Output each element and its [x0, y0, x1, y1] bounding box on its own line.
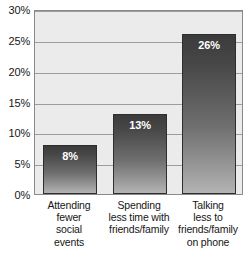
- bar: 8%: [43, 145, 97, 194]
- x-axis-category-line: events: [34, 236, 104, 248]
- x-axis-category-label: Spendingless time withfriends/family: [104, 199, 174, 236]
- x-axis-category-line: friends/family: [173, 223, 243, 235]
- bar-value-label: 13%: [114, 119, 166, 131]
- plot-area: 8%13%26%: [34, 10, 243, 195]
- x-axis-category-line: fewer: [34, 211, 104, 223]
- x-axis-category-line: social: [34, 223, 104, 235]
- x-axis-category-line: Attending: [34, 199, 104, 211]
- x-axis-category-line: friends/family: [104, 223, 174, 235]
- x-axis-category-label: Attendingfewersocialevents: [34, 199, 104, 248]
- y-axis-tick-label: 10%: [9, 128, 30, 139]
- y-axis-tick-label: 15%: [9, 97, 30, 108]
- bar: 26%: [182, 34, 236, 194]
- bar-chart: 0%5%10%15%20%25%30% 8%13%26% Attendingfe…: [0, 0, 250, 258]
- y-axis-tick-label: 30%: [9, 5, 30, 16]
- bar-value-label: 8%: [44, 150, 96, 162]
- x-axis-category-line: Talking: [173, 199, 243, 211]
- x-axis-category-line: less time with: [104, 211, 174, 223]
- x-axis-category-line: Spending: [104, 199, 174, 211]
- x-axis: AttendingfewersocialeventsSpendingless t…: [34, 199, 243, 257]
- bars: 8%13%26%: [35, 11, 242, 194]
- bar: 13%: [113, 114, 167, 194]
- y-axis-tick-label: 5%: [15, 159, 31, 170]
- bar-value-label: 26%: [183, 39, 235, 51]
- y-axis-tick-label: 20%: [9, 66, 30, 77]
- y-axis-tick-label: 0%: [15, 190, 31, 201]
- y-axis: 0%5%10%15%20%25%30%: [0, 0, 32, 258]
- x-axis-category-label: Talkingless tofriends/familyon phone: [173, 199, 243, 248]
- y-axis-tick-label: 25%: [9, 35, 30, 46]
- x-axis-category-line: on phone: [173, 236, 243, 248]
- x-axis-category-line: less to: [173, 211, 243, 223]
